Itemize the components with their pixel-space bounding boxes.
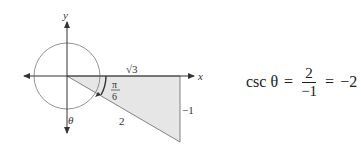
theta-arc (67, 90, 96, 109)
opposite-side-label: −1 (182, 104, 194, 116)
fraction-denominator: −1 (298, 83, 320, 100)
cosecant-equation: csc θ = 2 −1 = −2 (246, 62, 357, 102)
equals-sign: = (284, 73, 293, 91)
equation-lhs: csc θ (246, 73, 278, 91)
fraction: 2 −1 (298, 65, 320, 100)
theta-label: θ (68, 114, 74, 126)
equation-result: −2 (340, 73, 357, 91)
adjacent-side-label: √3 (126, 63, 138, 75)
hypotenuse-label: 2 (119, 115, 125, 127)
reference-angle-denominator: 6 (112, 91, 117, 102)
fraction-numerator: 2 (302, 65, 316, 83)
reference-angle-numerator: π (112, 79, 117, 90)
x-axis-label: x (197, 70, 203, 82)
y-axis-label: y (62, 9, 68, 21)
reference-triangle (67, 76, 180, 142)
equals-sign-2: = (325, 73, 334, 91)
